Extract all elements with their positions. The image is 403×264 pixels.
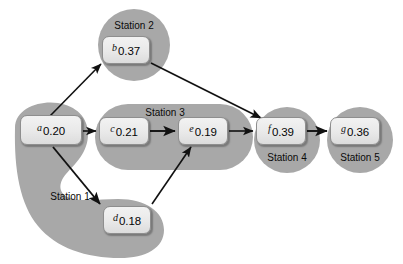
edge-a-to-b [50,64,101,116]
node-d-value: 0.18 [119,215,141,227]
node-c-content: c0.21 [110,123,137,139]
station-label-station-4: Station 4 [247,152,327,163]
node-d-content: d0.18 [113,212,141,228]
node-b-content: b0.37 [112,42,140,58]
node-a-letter: a [37,122,42,133]
node-f-value: 0.39 [272,126,294,138]
node-f-letter: f [268,123,271,134]
node-g-value: 0.36 [347,126,369,138]
node-d[interactable]: d0.18 [103,206,151,234]
node-e-letter: e [189,123,193,134]
node-b-letter: b [112,42,117,53]
node-g-letter: g [341,123,346,134]
node-d-letter: d [113,212,118,223]
node-f-content: f0.39 [268,123,294,139]
node-a-content: a0.20 [37,122,65,138]
station-label-station-1: Station 1 [30,191,110,202]
node-a[interactable]: a0.20 [20,115,82,145]
station-label-station-5: Station 5 [320,152,400,163]
node-b-value: 0.37 [118,45,140,57]
node-b[interactable]: b0.37 [102,36,150,64]
station-network-diagram: Station 1 Station 2 Station 3 Station 4 … [0,0,403,264]
node-c-letter: c [110,123,114,134]
node-a-value: 0.20 [43,125,65,137]
node-c-value: 0.21 [116,126,138,138]
node-e-value: 0.19 [195,126,217,138]
node-g-content: g0.36 [341,123,369,139]
node-f[interactable]: f0.39 [256,117,306,145]
node-c[interactable]: c0.21 [99,117,149,145]
node-g[interactable]: g0.36 [330,117,380,145]
station-label-station-2: Station 2 [94,20,174,31]
node-e-content: e0.19 [189,123,216,139]
node-e[interactable]: e0.19 [178,117,228,145]
